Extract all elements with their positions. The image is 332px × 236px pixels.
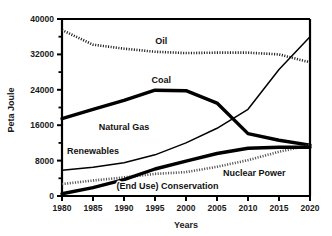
energy-mix-line-chart: 0800016000240003200040000 19801985199019… [0,0,332,236]
y-axis-title: Peta Joule [6,87,16,132]
x-axis-title: Years [174,220,198,230]
series-label: Oil [155,36,167,46]
y-tick-label: 32000 [30,49,54,59]
series-label: Nuclear Power [223,168,286,178]
chart-figure: 0800016000240003200040000 19801985199019… [0,0,332,236]
x-tick-label: 1980 [53,203,72,213]
x-tick-label: 2005 [208,203,227,213]
y-tick-label: 40000 [30,14,54,24]
x-tick-label: 2010 [239,203,258,213]
y-tick-label: 8000 [35,156,54,166]
y-tick-label: 0 [49,191,54,201]
x-tick-label: 1995 [146,203,165,213]
series-label: Coal [151,75,171,85]
series-label: Renewables [67,146,119,156]
y-tick-label: 16000 [30,120,54,130]
x-tick-label: 2015 [270,203,289,213]
series-label: (End Use) Conservation [116,181,218,191]
x-tick-label: 2020 [301,203,320,213]
x-tick-label: 1985 [84,203,103,213]
x-tick-label: 1990 [115,203,134,213]
x-axis-tick-labels: 198019851990199520002005201020152020 [53,203,320,213]
x-tick-label: 2000 [177,203,196,213]
y-tick-label: 24000 [30,85,54,95]
series-label: Natural Gas [99,122,150,132]
